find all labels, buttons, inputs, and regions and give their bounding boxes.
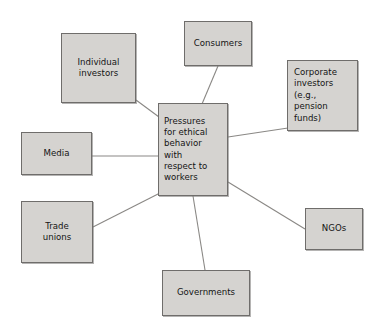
link-ngos bbox=[228, 182, 305, 229]
link-individual-investors bbox=[136, 100, 159, 117]
node-individual-investors[interactable]: Individual investors bbox=[61, 33, 136, 103]
node-ngos-label: NGOs bbox=[319, 223, 349, 234]
node-center-pressures-label: Pressures for ethical behavior with resp… bbox=[159, 116, 210, 183]
node-trade-unions[interactable]: Trade unions bbox=[21, 201, 93, 263]
node-consumers[interactable]: Consumers bbox=[184, 21, 252, 66]
node-media-label: Media bbox=[41, 148, 73, 159]
node-consumers-label: Consumers bbox=[191, 38, 245, 49]
node-governments[interactable]: Governments bbox=[162, 270, 250, 316]
link-trade-unions bbox=[93, 193, 160, 227]
node-ngos[interactable]: NGOs bbox=[305, 208, 363, 250]
node-center-pressures[interactable]: Pressures for ethical behavior with resp… bbox=[158, 103, 228, 196]
node-trade-unions-label: Trade unions bbox=[40, 221, 74, 244]
node-media[interactable]: Media bbox=[21, 132, 92, 175]
node-corporate-investors[interactable]: Corporate investors (e.g., pension funds… bbox=[287, 60, 358, 131]
node-corporate-investors-label: Corporate investors (e.g., pension funds… bbox=[288, 67, 340, 124]
node-governments-label: Governments bbox=[174, 287, 238, 298]
link-consumers bbox=[202, 66, 218, 104]
node-individual-investors-label: Individual investors bbox=[75, 57, 123, 80]
diagram-canvas: Pressures for ethical behavior with resp… bbox=[0, 0, 384, 332]
link-corporate-investors bbox=[228, 128, 288, 137]
link-governments bbox=[193, 196, 205, 270]
